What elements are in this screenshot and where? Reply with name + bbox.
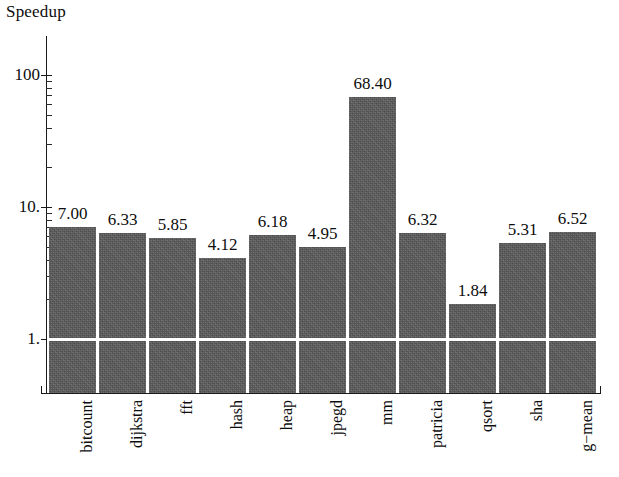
bar-value-label: 5.85 <box>140 216 205 233</box>
bar-value-label: 6.32 <box>390 211 455 228</box>
bar[interactable] <box>299 247 346 393</box>
category-label-text: mm <box>379 400 395 425</box>
category-label: bitcount <box>79 400 95 452</box>
bar[interactable] <box>449 304 496 393</box>
category-label: hash <box>229 400 245 429</box>
category-label-text: g−mean <box>579 400 595 452</box>
bar-value-label: 1.84 <box>440 282 505 299</box>
bar[interactable] <box>249 235 296 393</box>
category-label: patricia <box>429 400 445 448</box>
bar[interactable] <box>549 232 596 393</box>
category-label-text: sha <box>529 400 545 421</box>
category-label-text: fft <box>179 400 195 415</box>
category-label: heap <box>279 400 295 430</box>
bar-value-label: 4.12 <box>190 236 255 253</box>
bar[interactable] <box>399 233 446 393</box>
category-label-text: hash <box>229 400 245 429</box>
bar[interactable] <box>349 97 396 393</box>
category-label: jpegd <box>329 400 345 436</box>
category-label: g−mean <box>579 400 595 452</box>
category-label: fft <box>179 400 195 415</box>
bar[interactable] <box>49 227 96 393</box>
speedup-bar-chart: Speedup 10010.1. 7.006.335.854.126.184.9… <box>0 0 619 477</box>
category-label-text: dijkstra <box>129 400 145 448</box>
category-label-text: qsort <box>479 400 495 432</box>
bar[interactable] <box>499 243 546 393</box>
category-label-text: bitcount <box>79 400 95 452</box>
bar[interactable] <box>199 258 246 393</box>
category-label-text: heap <box>279 400 295 430</box>
bar-value-label: 68.40 <box>340 75 405 92</box>
y-axis-title: Speedup <box>6 2 66 22</box>
category-label-text: patricia <box>429 400 445 448</box>
category-label: mm <box>379 400 395 425</box>
bar[interactable] <box>149 238 196 393</box>
category-label: sha <box>529 400 545 421</box>
bar[interactable] <box>99 233 146 393</box>
category-label-text: jpegd <box>329 400 345 436</box>
category-label: dijkstra <box>129 400 145 448</box>
category-label: qsort <box>479 400 495 432</box>
bar-value-label: 4.95 <box>290 225 355 242</box>
x-axis-line <box>41 393 601 394</box>
bar-value-label: 6.52 <box>540 210 605 227</box>
gridline-value-one <box>47 338 600 341</box>
